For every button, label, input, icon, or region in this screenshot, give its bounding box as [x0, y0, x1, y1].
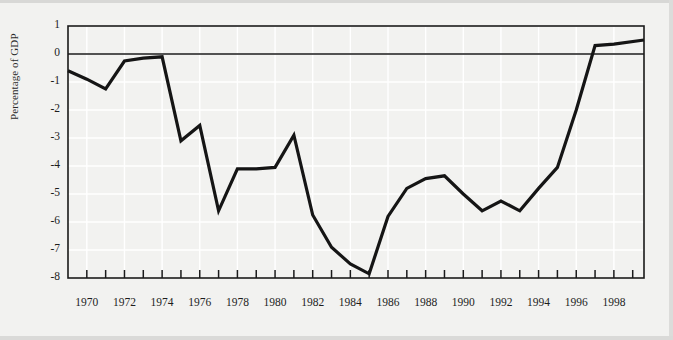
y-axis-title: Percentage of GDP — [8, 0, 20, 120]
axis-tick-marks — [87, 270, 633, 278]
x-tick-label: 1998 — [592, 296, 636, 308]
line-chart-figure: Percentage of GDP 10-1-2-3-4-5-6-7-8 197… — [0, 0, 673, 340]
data-series-line — [68, 40, 644, 274]
y-tick-label: -7 — [34, 242, 60, 254]
y-tick-label: 1 — [34, 18, 60, 30]
plot-frame — [68, 26, 644, 278]
y-tick-label: -2 — [34, 102, 60, 114]
y-tick-label: -3 — [34, 130, 60, 142]
y-tick-label: 0 — [34, 46, 60, 58]
scanned-page: Percentage of GDP 10-1-2-3-4-5-6-7-8 197… — [0, 0, 673, 340]
y-tick-label: -6 — [34, 214, 60, 226]
y-tick-label: -1 — [34, 74, 60, 86]
grid-lines — [68, 26, 644, 278]
y-tick-label: -5 — [34, 186, 60, 198]
y-tick-label: -8 — [34, 270, 60, 282]
y-tick-label: -4 — [34, 158, 60, 170]
chart-plot-svg — [0, 0, 673, 340]
